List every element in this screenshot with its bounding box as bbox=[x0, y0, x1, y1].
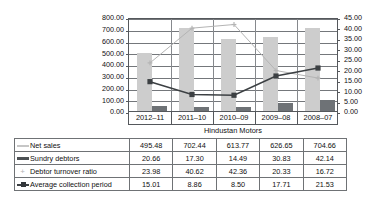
table-value-cell: 17.30 bbox=[173, 152, 216, 165]
average-collection-period-marker bbox=[147, 79, 152, 84]
legend-key bbox=[15, 154, 30, 163]
category-label: 2009–08 bbox=[255, 112, 297, 124]
table-value-cell: 42.36 bbox=[216, 165, 259, 178]
series-name-cell: Net sales bbox=[15, 139, 130, 152]
category-label: 2012–11 bbox=[129, 112, 171, 124]
left-axis-tick: 300.00 bbox=[86, 73, 124, 80]
legend-key bbox=[15, 180, 30, 189]
left-axis-tick: 200.00 bbox=[86, 85, 124, 92]
category-label-divider bbox=[213, 112, 214, 124]
category-label: 2008–07 bbox=[297, 112, 339, 124]
table-value-cell: 17.71 bbox=[260, 178, 303, 191]
table-value-cell: 42.14 bbox=[303, 152, 346, 165]
average-collection-period-marker bbox=[273, 73, 278, 78]
chart-page: 0.00100.00200.00300.00400.00500.00600.00… bbox=[0, 0, 384, 205]
debtor-turnover-ratio-marker bbox=[316, 76, 321, 81]
chart-title: Hindustan Motors bbox=[128, 126, 338, 135]
legend-key: + bbox=[15, 167, 30, 176]
right-axis-tick: 25.00 bbox=[344, 56, 382, 63]
category-label: 2010–09 bbox=[213, 112, 255, 124]
category-label-divider bbox=[297, 112, 298, 124]
category-label: 2011–10 bbox=[171, 112, 213, 124]
table-value-cell: 8.86 bbox=[173, 178, 216, 191]
table-value-cell: 23.98 bbox=[130, 165, 173, 178]
left-axis-tick: 0.00 bbox=[86, 108, 124, 115]
right-axis-tick: 45.00 bbox=[344, 14, 382, 21]
category-label-divider bbox=[255, 112, 256, 124]
left-axis-tick: 400.00 bbox=[86, 61, 124, 68]
table-value-cell: 20.33 bbox=[260, 165, 303, 178]
left-axis-tick: 100.00 bbox=[86, 97, 124, 104]
table-row: Sundry debtors20.6617.3014.4930.8342.14 bbox=[15, 152, 347, 165]
data-table: Net sales495.48702.44613.77626.65704.66S… bbox=[14, 138, 347, 191]
table-value-cell: 8.50 bbox=[216, 178, 259, 191]
table-value-cell: 626.65 bbox=[260, 139, 303, 152]
right-axis-tick: 30.00 bbox=[344, 46, 382, 53]
right-axis-tick: 10.00 bbox=[344, 88, 382, 95]
debtor-turnover-ratio-line bbox=[150, 25, 318, 79]
table-value-cell: 495.48 bbox=[130, 139, 173, 152]
table-row: Net sales495.48702.44613.77626.65704.66 bbox=[15, 139, 347, 152]
series-name-cell: Sundry debtors bbox=[15, 152, 130, 165]
legend-line-light-icon bbox=[17, 145, 29, 147]
table-value-cell: 16.72 bbox=[303, 165, 346, 178]
average-collection-period-marker bbox=[189, 92, 194, 97]
right-axis-tick: 15.00 bbox=[344, 77, 382, 84]
plot-area bbox=[128, 18, 338, 112]
left-axis-tick: 800.00 bbox=[86, 14, 124, 21]
category-label-divider bbox=[171, 112, 172, 124]
left-axis-tick: 700.00 bbox=[86, 26, 124, 33]
table-value-cell: 21.53 bbox=[303, 178, 346, 191]
lines-layer bbox=[129, 19, 339, 113]
table-value-cell: 30.83 bbox=[260, 152, 303, 165]
series-name-cell: +Debtor turnover ratio bbox=[15, 165, 130, 178]
table-value-cell: 704.66 bbox=[303, 139, 346, 152]
average-collection-period-line bbox=[150, 68, 318, 95]
series-name: Average collection period bbox=[30, 180, 112, 189]
chart-area: 0.00100.00200.00300.00400.00500.00600.00… bbox=[0, 0, 384, 134]
right-axis-tick: 35.00 bbox=[344, 35, 382, 42]
legend-square-marker-icon bbox=[17, 182, 29, 187]
left-axis-tick: 500.00 bbox=[86, 50, 124, 57]
legend-plus-icon: + bbox=[17, 168, 29, 176]
table-value-cell: 14.49 bbox=[216, 152, 259, 165]
legend-key bbox=[15, 141, 30, 150]
average-collection-period-marker bbox=[315, 65, 320, 70]
series-name: Net sales bbox=[30, 141, 60, 150]
table-value-cell: 702.44 bbox=[173, 139, 216, 152]
table-row: Average collection period15.018.868.5017… bbox=[15, 178, 347, 191]
series-name-cell: Average collection period bbox=[15, 178, 130, 191]
left-axis-tick: 600.00 bbox=[86, 38, 124, 45]
right-axis-tick: 20.00 bbox=[344, 67, 382, 74]
table-row: +Debtor turnover ratio23.9840.6242.3620.… bbox=[15, 165, 347, 178]
average-collection-period-marker bbox=[231, 93, 236, 98]
series-name: Debtor turnover ratio bbox=[30, 167, 97, 176]
category-axis: 2012–112011–102010–092009–082008–07 bbox=[128, 112, 338, 125]
right-axis-tick: 0.00 bbox=[344, 108, 382, 115]
table-value-cell: 15.01 bbox=[130, 178, 173, 191]
table-value-cell: 613.77 bbox=[216, 139, 259, 152]
legend-line-dark-icon bbox=[17, 157, 29, 160]
series-name: Sundry debtors bbox=[30, 154, 80, 163]
table-value-cell: 20.66 bbox=[130, 152, 173, 165]
right-axis-tick: 5.00 bbox=[344, 98, 382, 105]
right-axis-tick: 40.00 bbox=[344, 25, 382, 32]
table-value-cell: 40.62 bbox=[173, 165, 216, 178]
